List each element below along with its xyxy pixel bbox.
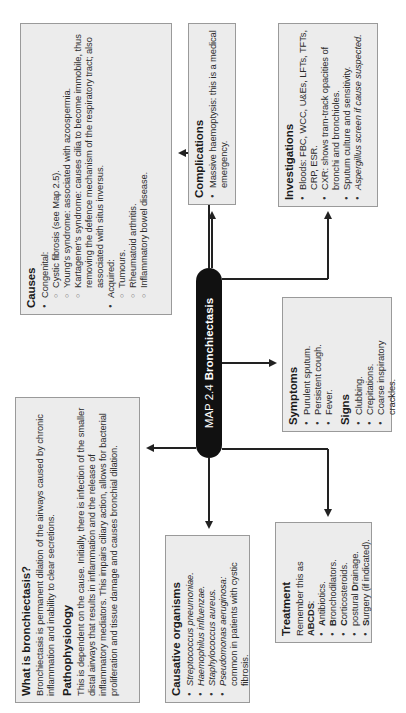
investigations-box: Investigations Bloods: FBC, WCC, U&Es, L… (278, 23, 378, 207)
investigations-heading: Investigations (283, 30, 296, 200)
sign-item: Coarse inspiratory crackles. (375, 304, 397, 425)
symptoms-heading: Symptoms (287, 304, 300, 425)
cause-item: Young's syndrome: associated with azoosp… (61, 30, 72, 308)
organism-item: Pseudomonas aeruginosa: common in patien… (217, 542, 250, 696)
causes-heading: Causes (25, 30, 38, 308)
causes-group-acquired: Acquired: (105, 30, 116, 308)
cause-item: Tumours. (116, 30, 127, 308)
investigation-item: Sputum culture and sensitivity. (341, 30, 352, 200)
investigation-item: CXR: shows tram-track opacities of bronc… (319, 30, 341, 200)
organism-name: Pseudomonas aeruginosa: (217, 577, 228, 686)
treatment-item: Bronchodilators. (327, 529, 338, 636)
organism-name: Haemophilus influenzae. (195, 586, 206, 686)
organism-name: Staphylococcus aureus. (206, 589, 217, 686)
organisms-heading: Causative organisms (170, 542, 183, 696)
symptom-item: Persistent cough. (312, 304, 323, 425)
investigation-item: Bloods: FBC, WCC, U&Es, LFTs, TFTs, CRP,… (297, 30, 319, 200)
cause-item: Rheumatoid arthritis. (127, 30, 138, 308)
complications-box: Complications Massive haemoptysis: this … (188, 23, 236, 205)
map-number-label: MAP 2.4 (203, 384, 215, 428)
organism-note: common in patients with cystic fibrosis. (228, 562, 250, 686)
central-topic-pill: MAP 2.4 Bronchiectasis (196, 268, 222, 458)
causes-group-congenital: Congenital: (39, 30, 50, 308)
organism-item: Staphylococcus aureus. (206, 542, 217, 696)
treatment-item: postural Drainage. (349, 529, 360, 636)
treatment-item: Antibiotics. (316, 529, 327, 636)
sign-item: Clubbing. (353, 304, 364, 425)
pathophysiology-heading: Pathophysiology (61, 404, 74, 696)
treatment-heading: Treatment (280, 529, 293, 636)
complications-heading: Complications (193, 30, 206, 198)
organism-item: Haemophilus influenzae. (195, 542, 206, 696)
organism-name: Streptococcus pneumoniae. (184, 572, 195, 686)
cause-item: Inflammatory bowel disease. (138, 30, 149, 308)
cause-item: Kartagener's syndrome: causes cilia to b… (72, 30, 105, 308)
treatment-item: Corticosteroids. (338, 529, 349, 636)
mnemonic: ABCDS (305, 603, 316, 636)
treatment-intro: Remember this as ABCDS: (294, 529, 316, 636)
treatment-box: Treatment Remember this as ABCDS: Antibi… (275, 522, 372, 643)
organisms-box: Causative organisms Streptococcus pneumo… (165, 535, 250, 703)
definition-box: What is bronchiectasis? Bronchiectasis i… (15, 397, 140, 703)
symptom-item: Purulent sputum. (301, 304, 312, 425)
investigation-item: Aspergillus screen if cause suspected. (352, 30, 363, 200)
symptom-item: Fever. (323, 304, 334, 425)
treatment-item: Surgery (if indicated). (360, 529, 371, 636)
sign-item: Crepitations. (364, 304, 375, 425)
concept-map-rotated: MAP 2.4 Bronchiectasis Causes Congenital… (0, 0, 406, 713)
definition-text: Bronchiectasis is permanent dilation of … (34, 404, 56, 696)
signs-heading: Signs (339, 304, 352, 425)
pathophysiology-text: This is dependent on the cause. Initiall… (75, 404, 119, 696)
central-topic-title: Bronchiectasis (203, 298, 215, 380)
cause-item: Cystic fibrosis (see Map 2.5). (50, 30, 61, 308)
organism-item: Streptococcus pneumoniae. (184, 542, 195, 696)
complication-item: Massive haemoptysis: this is a medical e… (207, 30, 229, 198)
causes-box: Causes Congenital: Cystic fibrosis (see … (20, 23, 172, 315)
definition-heading: What is bronchiectasis? (20, 404, 33, 696)
symptoms-signs-box: Symptoms Purulent sputum. Persistent cou… (282, 297, 392, 432)
